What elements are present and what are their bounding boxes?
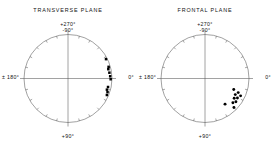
axis-tick-mark <box>37 108 39 110</box>
data-point-marker <box>106 94 109 97</box>
data-point-marker <box>107 86 110 89</box>
axis-tick-mark <box>57 36 58 39</box>
axis-tick-mark <box>89 114 90 116</box>
axis-tick-mark <box>162 89 165 90</box>
axis-label-bottom-transverse: +90° <box>0 133 136 139</box>
data-point-marker <box>233 97 236 100</box>
data-point-marker <box>237 91 240 94</box>
axis-tick-mark <box>183 40 184 42</box>
data-point-marker <box>109 75 112 78</box>
axis-label-left-transverse: ± 180° <box>2 74 19 80</box>
data-point-marker <box>234 100 237 103</box>
polar-diagram-frontal: +270° -90° ± 180° 0° +90° <box>137 0 273 150</box>
polar-diagram-transverse: +270° -90° ± 180° 0° +90° <box>0 0 136 150</box>
axis-tick-mark <box>216 36 217 39</box>
axis-tick-mark <box>57 118 58 121</box>
axis-tick-mark <box>79 118 80 121</box>
axis-tick-mark <box>89 40 90 42</box>
axis-tick-mark <box>245 89 248 90</box>
axis-label-right-transverse: 0° <box>128 74 134 80</box>
axis-tick-mark <box>25 67 28 68</box>
polar-plot-figure: TRANSVERSE PLANE +270° -90° ± 180° 0° +9… <box>0 0 273 150</box>
axis-label-top-secondary-frontal: -90° <box>137 27 273 33</box>
axis-label-left-frontal: ± 180° <box>139 74 156 80</box>
panel-transverse: TRANSVERSE PLANE +270° -90° ± 180° 0° +9… <box>0 0 136 150</box>
data-point-marker <box>236 97 239 100</box>
axis-tick-mark <box>183 114 184 116</box>
axis-tick-mark <box>30 99 32 100</box>
axis-tick-mark <box>226 40 227 42</box>
axis-tick-mark <box>104 57 106 58</box>
data-point-marker <box>224 103 227 106</box>
panel-frontal: FRONTAL PLANE +270° -90° ± 180° 0° +90° <box>137 0 273 150</box>
axis-label-right-frontal: 0° <box>265 74 271 80</box>
data-point-marker <box>107 66 110 69</box>
axis-tick-mark <box>167 99 169 100</box>
axis-tick-mark <box>162 67 165 68</box>
data-point-marker <box>108 71 111 74</box>
data-point-marker <box>231 101 234 104</box>
axis-tick-mark <box>108 89 111 90</box>
axis-tick-mark <box>234 47 236 49</box>
axis-tick-mark <box>167 57 169 58</box>
data-point-marker <box>232 88 235 91</box>
data-point-group <box>105 58 112 96</box>
axis-tick-mark <box>79 36 80 39</box>
data-point-marker <box>232 106 235 109</box>
axis-tick-mark <box>25 89 28 90</box>
axis-tick-mark <box>241 99 243 100</box>
data-point-marker <box>106 91 109 94</box>
axis-tick-mark <box>104 99 106 100</box>
axis-tick-mark <box>37 47 39 49</box>
axis-tick-mark <box>30 57 32 58</box>
axis-tick-mark <box>194 36 195 39</box>
data-point-marker <box>239 94 242 97</box>
axis-label-top-secondary-transverse: -90° <box>0 27 136 33</box>
axis-tick-mark <box>46 40 47 42</box>
axis-tick-mark <box>241 57 243 58</box>
data-point-marker <box>109 78 112 81</box>
axis-tick-mark <box>245 67 248 68</box>
axis-label-bottom-frontal: +90° <box>137 133 273 139</box>
data-point-marker <box>106 88 109 91</box>
data-point-marker <box>234 93 237 96</box>
data-point-marker <box>107 68 110 71</box>
data-point-marker <box>105 58 108 61</box>
axis-tick-mark <box>97 108 99 110</box>
axis-tick-mark <box>46 114 47 116</box>
axis-tick-mark <box>174 108 176 110</box>
axis-tick-mark <box>174 47 176 49</box>
axis-tick-mark <box>194 118 195 121</box>
axis-tick-mark <box>226 114 227 116</box>
axis-tick-mark <box>216 118 217 121</box>
axis-tick-mark <box>97 47 99 49</box>
